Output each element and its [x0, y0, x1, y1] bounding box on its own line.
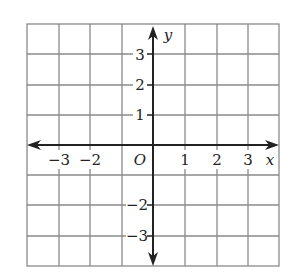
x-tick-label: −2	[79, 151, 101, 169]
coordinate-plane: −3 −2 O 1 2 3 x 3 2 1 −2 −3 y	[0, 0, 292, 280]
origin-label: O	[134, 151, 146, 169]
y-tick-label: 1	[135, 106, 145, 124]
x-tick-label: 3	[243, 151, 253, 169]
y-tick-label: −2	[126, 196, 148, 214]
y-axis-label: y	[163, 26, 173, 44]
x-tick-label: 2	[212, 151, 222, 169]
x-tick-label: −3	[48, 151, 70, 169]
axes	[27, 26, 279, 266]
x-tick-label: 1	[180, 151, 190, 169]
y-tick-label: 2	[135, 76, 145, 94]
y-tick-label: −3	[126, 227, 148, 245]
x-axis-label: x	[266, 151, 275, 169]
y-tick-label: 3	[135, 46, 145, 64]
